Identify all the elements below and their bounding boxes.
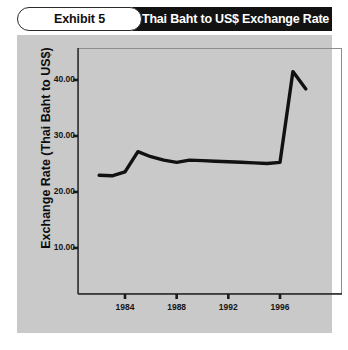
data-series-line: [99, 72, 306, 176]
title-bar: Thai Baht to US$ Exchange Rate: [132, 7, 332, 31]
chart-panel: Exchange Rate (Thai Baht to US$) 10.0020…: [17, 35, 332, 333]
exhibit-figure: Thai Baht to US$ Exchange Rate Exhibit 5…: [0, 0, 348, 350]
exhibit-header: Thai Baht to US$ Exchange Rate Exhibit 5: [17, 7, 332, 31]
plot-area: [17, 35, 332, 333]
y-axis-ticks: [73, 80, 78, 248]
exhibit-number-badge: Exhibit 5: [17, 7, 142, 31]
exhibit-number-label: Exhibit 5: [18, 12, 141, 26]
x-axis-ticks: [125, 294, 280, 299]
chart-title: Thai Baht to US$ Exchange Rate: [142, 12, 329, 26]
